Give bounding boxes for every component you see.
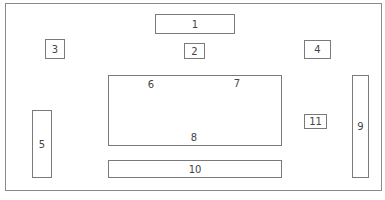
- area-10-label: 10: [189, 164, 202, 175]
- area-5-label: 5: [39, 139, 45, 150]
- area-2: 2: [184, 43, 205, 59]
- area-9-label: 9: [357, 121, 363, 132]
- area-4-label: 4: [314, 44, 320, 55]
- area-1: 1: [155, 14, 235, 34]
- area-10: 10: [108, 160, 282, 178]
- area-7-label: 7: [234, 78, 240, 89]
- area-11-label: 11: [309, 116, 322, 127]
- area-2-label: 2: [191, 46, 197, 57]
- area-1-label: 1: [192, 19, 198, 30]
- area-9: 9: [352, 75, 369, 178]
- area-6-label: 6: [148, 79, 154, 90]
- area-3: 3: [45, 39, 65, 59]
- area-11: 11: [304, 114, 327, 129]
- area-5: 5: [32, 110, 52, 178]
- area-4: 4: [304, 40, 331, 59]
- area-8-label: 8: [191, 132, 197, 143]
- area-3-label: 3: [52, 44, 58, 55]
